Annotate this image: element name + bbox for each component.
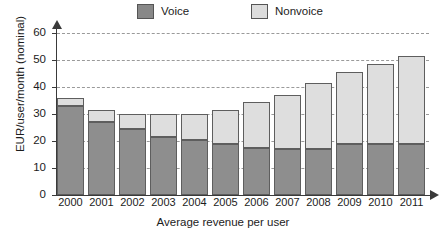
bar-segment-voice bbox=[212, 144, 239, 195]
bar-segment-nonvoice bbox=[181, 114, 208, 140]
bar-segment-nonvoice bbox=[88, 110, 115, 121]
bar-segment-voice bbox=[150, 137, 177, 195]
bar-segment-voice bbox=[336, 144, 363, 195]
y-tick-label: 0 bbox=[20, 189, 46, 201]
bar-segment-nonvoice bbox=[57, 98, 84, 107]
legend-item-voice: Voice bbox=[137, 4, 189, 19]
bar-2006 bbox=[243, 33, 270, 195]
x-axis-title: Average revenue per user bbox=[0, 216, 446, 228]
bar-segment-voice bbox=[305, 149, 332, 195]
bar-2002 bbox=[119, 33, 146, 195]
bar-segment-voice bbox=[274, 149, 301, 195]
stacked-bar-chart: Voice Nonvoice 0102030405060 20002001200… bbox=[0, 0, 446, 239]
bar-2007 bbox=[274, 33, 301, 195]
bar-2000 bbox=[57, 33, 84, 195]
bar-2005 bbox=[212, 33, 239, 195]
bar-segment-nonvoice bbox=[336, 72, 363, 144]
bar-segment-voice bbox=[367, 144, 394, 195]
bar-segment-nonvoice bbox=[305, 83, 332, 148]
bar-segment-nonvoice bbox=[243, 102, 270, 148]
chart-legend: Voice Nonvoice bbox=[0, 4, 446, 24]
bar-segment-nonvoice bbox=[274, 95, 301, 149]
bar-segment-voice bbox=[57, 106, 84, 195]
bar-segment-nonvoice bbox=[212, 110, 239, 144]
bar-2003 bbox=[150, 33, 177, 195]
bar-2010 bbox=[367, 33, 394, 195]
legend-label-nonvoice: Nonvoice bbox=[275, 6, 323, 18]
legend-item-nonvoice: Nonvoice bbox=[251, 4, 323, 19]
bar-segment-nonvoice bbox=[398, 56, 425, 144]
bar-2001 bbox=[88, 33, 115, 195]
bar-segment-nonvoice bbox=[119, 114, 146, 129]
bar-segment-voice bbox=[243, 148, 270, 195]
y-axis-title: EUR/user/month (nominal) bbox=[14, 4, 26, 164]
bar-2011 bbox=[398, 33, 425, 195]
bar-segment-voice bbox=[398, 144, 425, 195]
bar-2009 bbox=[336, 33, 363, 195]
bar-2008 bbox=[305, 33, 332, 195]
bar-segment-nonvoice bbox=[150, 114, 177, 136]
x-tick-label-2011: 2011 bbox=[393, 197, 431, 208]
voice-swatch-icon bbox=[137, 4, 154, 19]
bar-segment-voice bbox=[88, 122, 115, 195]
bar-segment-nonvoice bbox=[367, 64, 394, 144]
nonvoice-swatch-icon bbox=[251, 4, 268, 19]
bar-segment-voice bbox=[119, 129, 146, 195]
y-tick-mark bbox=[52, 195, 57, 196]
plot-area bbox=[57, 33, 429, 195]
bar-segment-voice bbox=[181, 140, 208, 195]
bar-2004 bbox=[181, 33, 208, 195]
legend-label-voice: Voice bbox=[161, 6, 189, 18]
x-axis-arrow-icon bbox=[430, 190, 439, 200]
